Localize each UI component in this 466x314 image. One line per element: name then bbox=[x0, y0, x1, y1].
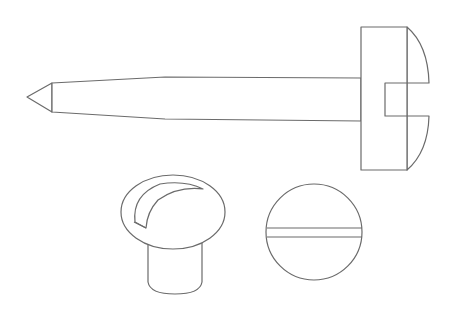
screw-head-body bbox=[361, 27, 407, 170]
screw-shank bbox=[52, 77, 361, 121]
screw-diagram bbox=[0, 0, 466, 314]
top-view bbox=[266, 184, 362, 280]
perspective-view bbox=[121, 175, 225, 294]
head-circle bbox=[266, 184, 362, 280]
screw-dome bbox=[121, 175, 225, 249]
screw-tip bbox=[27, 83, 52, 112]
side-view bbox=[27, 27, 429, 170]
